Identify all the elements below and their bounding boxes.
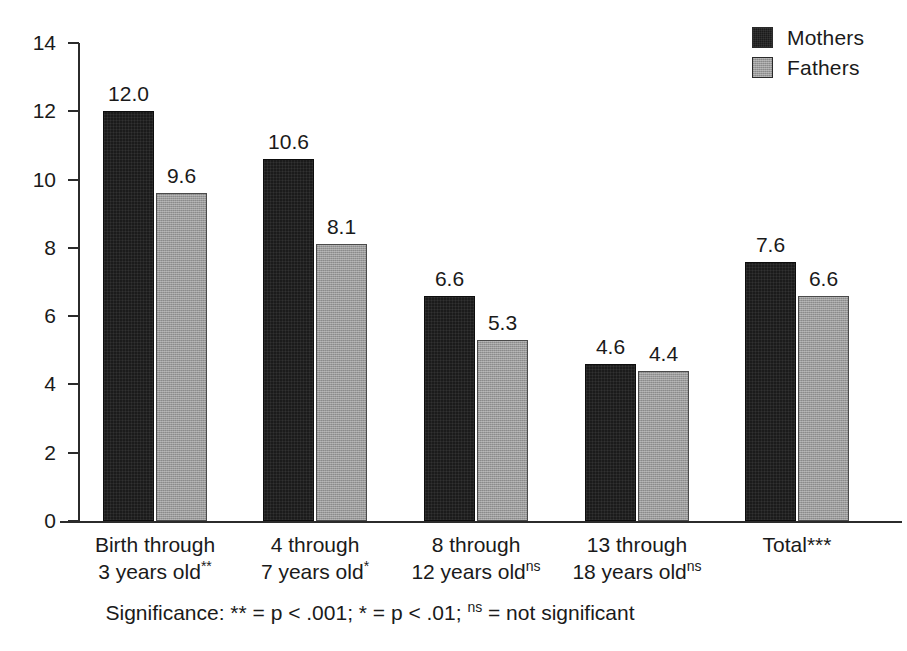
bar-value-label: 6.6: [412, 268, 487, 289]
bar-chart: Mothers Fathers 02468101214 Birth throug…: [0, 0, 907, 651]
footnote-suffix: = not significant: [482, 601, 634, 624]
bar-mothers-4: [585, 364, 636, 521]
x-axis-label-5: Total***: [687, 531, 907, 558]
x-axis-line: [60, 521, 902, 523]
x-axis-label-line1: Total***: [687, 531, 907, 558]
bar-value-label: 4.4: [626, 343, 701, 364]
bar-value-label: 6.6: [786, 268, 861, 289]
bar-value-label: 7.6: [733, 234, 808, 255]
bar-value-label: 8.1: [304, 216, 379, 237]
bar-fathers-3: [477, 340, 528, 521]
bar-fathers-4: [638, 371, 689, 521]
x-axis-label-line2: 18 years oldns: [527, 558, 747, 585]
bar-value-label: 10.6: [251, 131, 326, 152]
bar-value-label: 12.0: [91, 83, 166, 104]
bar-value-label: 5.3: [465, 312, 540, 333]
bar-fathers-5: [798, 296, 849, 521]
significance-footnote: Significance: ** = p < .001; * = p < .01…: [0, 601, 740, 625]
bar-value-label: 9.6: [144, 165, 219, 186]
bar-mothers-5: [745, 262, 796, 521]
footnote-ns-marker: ns: [467, 599, 482, 615]
bar-fathers-1: [156, 193, 207, 521]
significance-marker: ns: [687, 558, 702, 574]
bar-mothers-2: [263, 159, 314, 521]
bars-layer: [0, 0, 907, 521]
bar-fathers-2: [316, 244, 367, 521]
footnote-prefix: Significance: ** = p < .001; * = p < .01…: [105, 601, 467, 624]
